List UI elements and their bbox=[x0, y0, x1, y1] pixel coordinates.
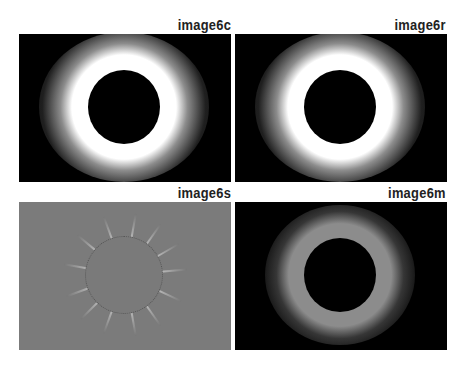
panel-image6m bbox=[235, 202, 447, 350]
panel-image6r bbox=[235, 34, 447, 182]
streamer bbox=[161, 269, 187, 273]
streamer bbox=[145, 224, 162, 246]
moon-disk-outline bbox=[85, 236, 163, 314]
panel-label-image6c: image6c bbox=[178, 17, 231, 33]
panel-label-image6m: image6m bbox=[388, 185, 446, 201]
streamer bbox=[157, 289, 181, 302]
streamer bbox=[156, 243, 180, 258]
eclipse-figure: image6c image6r image6s image6m bbox=[0, 0, 464, 365]
streamer bbox=[130, 310, 136, 336]
moon-disk bbox=[88, 70, 160, 144]
moon-disk bbox=[304, 70, 376, 144]
panel-label-image6r: image6r bbox=[395, 17, 446, 33]
panel-label-image6s: image6s bbox=[178, 185, 231, 201]
panel-image6s bbox=[19, 202, 231, 350]
moon-disk bbox=[304, 238, 376, 312]
panel-image6c bbox=[19, 34, 231, 182]
streamer bbox=[145, 304, 162, 326]
